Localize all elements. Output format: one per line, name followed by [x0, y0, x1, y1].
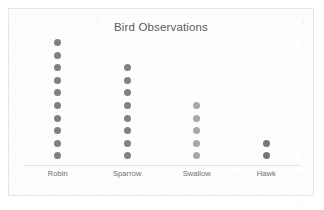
data-point — [124, 115, 131, 122]
data-point — [193, 127, 200, 134]
data-point — [124, 77, 131, 84]
data-point — [54, 115, 61, 122]
data-point — [193, 152, 200, 159]
data-point — [54, 127, 61, 134]
data-point — [124, 152, 131, 159]
chart-frame: Bird Observations RobinSparrowSwallowHaw… — [8, 8, 314, 196]
data-point — [54, 102, 61, 109]
data-point — [54, 77, 61, 84]
chart-title: Bird Observations — [9, 21, 313, 33]
data-point — [124, 102, 131, 109]
data-point — [54, 140, 61, 147]
x-axis-label: Sparrow — [113, 169, 142, 178]
data-point — [54, 52, 61, 59]
data-point — [54, 152, 61, 159]
data-point — [54, 89, 61, 96]
data-point — [124, 140, 131, 147]
data-point — [124, 127, 131, 134]
x-axis-label: Hawk — [257, 169, 276, 178]
data-point — [54, 64, 61, 71]
data-point — [193, 115, 200, 122]
x-axis-label-row: RobinSparrowSwallowHawk — [23, 169, 301, 187]
data-point — [124, 64, 131, 71]
data-point — [193, 140, 200, 147]
data-point — [263, 152, 270, 159]
x-axis-line — [23, 165, 301, 166]
data-point — [193, 102, 200, 109]
plot-area — [23, 39, 301, 165]
x-axis-label: Robin — [48, 169, 68, 178]
data-point — [124, 89, 131, 96]
x-axis-label: Swallow — [183, 169, 211, 178]
data-point — [263, 140, 270, 147]
data-point — [54, 39, 61, 46]
